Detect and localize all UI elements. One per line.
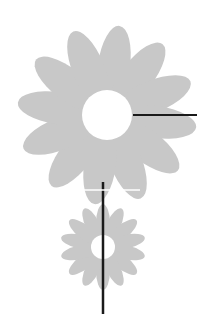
flowers-group [16,24,197,290]
flower-center [82,90,132,140]
daisy-illustration [0,0,197,314]
